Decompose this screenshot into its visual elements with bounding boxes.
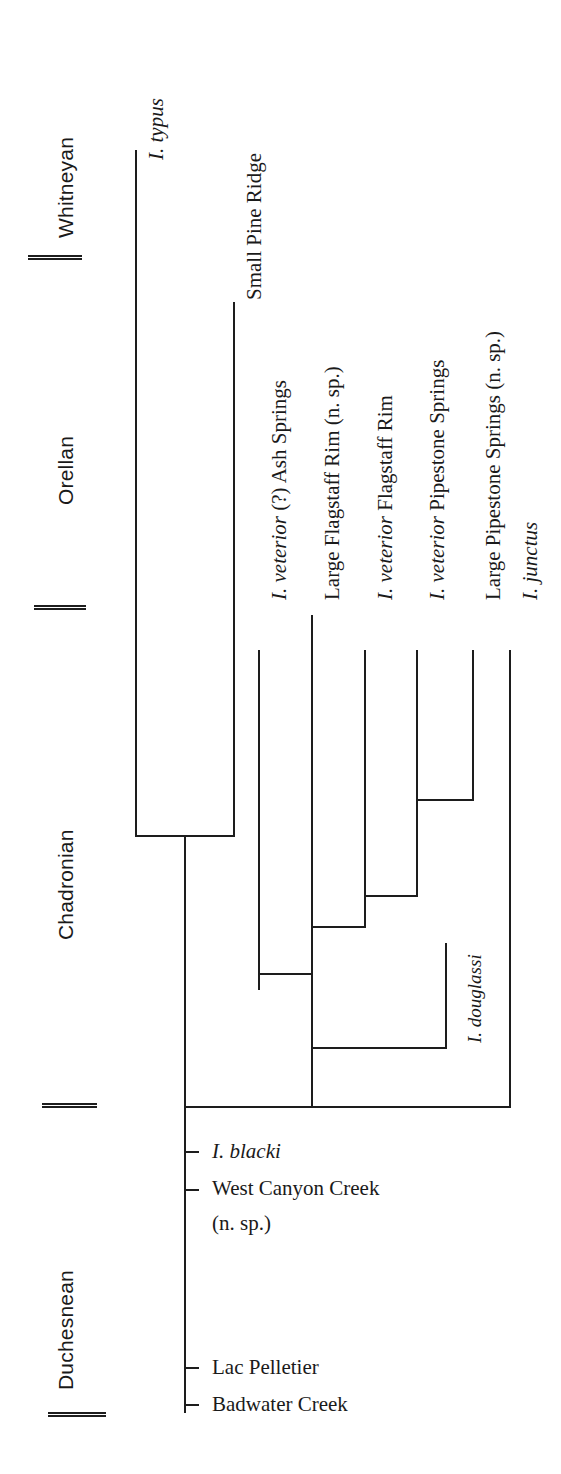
taxon-label-ash-springs: I. veterior (?) Ash Springs: [267, 380, 292, 600]
branch-i-douglassi: [445, 943, 447, 1048]
node-ashsprings-clade: [258, 973, 313, 975]
branch-small-pine-ridge: [233, 302, 235, 836]
age-label-whitneyan: Whitneyan: [54, 137, 78, 238]
taxon-label-large-flagstaff-rim: Large Flagstaff Rim (n. sp.): [320, 366, 345, 600]
tick-i-blacki: [186, 1151, 199, 1153]
boundary-orellan-chadronian: [34, 605, 86, 610]
branch-i-typus: [135, 150, 137, 836]
taxon-label-i-typus: I. typus: [144, 98, 169, 160]
occurrence-label-west-canyon-creek-nsp: (n. sp.): [212, 1211, 271, 1236]
branch-flagstaff-rim: [364, 650, 366, 927]
age-label-orellan: Orellan: [54, 436, 78, 505]
tick-badwater-creek: [186, 1404, 199, 1406]
base-line: [184, 1106, 511, 1108]
branch-i-junctus: [509, 650, 511, 1107]
occurrence-label-i-blacki: I. blacki: [212, 1139, 281, 1164]
boundary-chadronian-duchesnean: [42, 1103, 97, 1108]
taxon-label-i-junctus: I. junctus: [518, 522, 543, 600]
taxon-label-pipestone-springs: I. veterior Pipestone Springs: [425, 360, 450, 600]
taxon-label-small-pine-ridge: Small Pine Ridge: [242, 153, 267, 300]
occurrence-label-badwater-creek: Badwater Creek: [212, 1392, 348, 1417]
boundary-duchesnean-base: [48, 1412, 106, 1417]
taxon-label-i-douglassi: I. douglassi: [464, 954, 486, 1043]
node-pipestone-clade: [416, 799, 474, 801]
age-label-duchesnean: Duchesnean: [54, 1270, 78, 1390]
stem-left-clade: [184, 835, 186, 1107]
branch-large-pipestone-springs: [472, 650, 474, 800]
branch-ash-springs: [258, 650, 260, 990]
age-label-chadronian: Chadronian: [54, 829, 78, 940]
taxon-label-large-pipestone-springs: Large Pipestone Springs (n. sp.): [481, 331, 506, 600]
node-largeflagstaff-clade: [311, 926, 366, 928]
occurrence-label-west-canyon-creek: West Canyon Creek: [212, 1176, 379, 1201]
connector-i-douglassi: [311, 1047, 447, 1049]
figure-canvas: Whitneyan Orellan Chadronian Duchesnean: [0, 0, 561, 1474]
tick-west-canyon-creek: [186, 1189, 199, 1191]
stem-right-clade: [311, 926, 313, 1107]
taxon-label-flagstaff-rim: I. veterior Flagstaff Rim: [373, 395, 398, 600]
occurrence-label-lac-pelletier: Lac Pelletier: [212, 1355, 319, 1380]
branch-pipestone-springs: [416, 650, 418, 896]
tick-lac-pelletier: [186, 1367, 199, 1369]
node-flagstaff-pipestone: [364, 895, 418, 897]
branch-large-flagstaff-rim: [311, 615, 313, 975]
boundary-whitneyan-orellan: [28, 255, 82, 260]
